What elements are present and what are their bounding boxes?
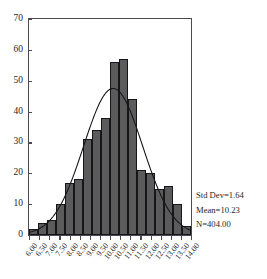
y-tick-mark: [28, 173, 32, 174]
y-tick-label: 60: [14, 45, 24, 55]
y-tick-label: 10: [14, 199, 24, 209]
histogram-bar: [47, 220, 56, 235]
histogram-chart: 010203040506070 6.006.507.007.508.008.50…: [0, 0, 267, 279]
histogram-bar: [128, 99, 137, 235]
stat-mean: Mean=10.23: [196, 203, 266, 218]
y-tick-label: 40: [14, 107, 24, 117]
histogram-bar: [173, 204, 182, 235]
y-tick-mark: [28, 235, 32, 236]
histogram-bar: [146, 173, 155, 235]
histogram-bar: [74, 179, 83, 235]
y-tick-label: 20: [14, 168, 24, 178]
histogram-bar: [92, 130, 101, 235]
histogram-bar: [110, 62, 119, 235]
histogram-bar: [164, 186, 173, 235]
histogram-bar: [119, 59, 128, 235]
y-tick-label: 70: [14, 14, 24, 24]
histogram-bar: [182, 226, 191, 235]
x-axis-labels: 6.006.507.007.508.008.509.009.5010.0010.…: [0, 236, 267, 279]
stat-std-dev: Std Dev=1.64: [196, 188, 266, 203]
bars-layer: [29, 19, 191, 235]
y-tick-mark: [28, 50, 32, 51]
y-tick-mark: [28, 142, 32, 143]
statistics-annotation: Std Dev=1.64 Mean=10.23 N=404.00: [196, 188, 266, 232]
histogram-bar: [101, 118, 110, 235]
y-tick-mark: [28, 81, 32, 82]
y-tick-label: 30: [14, 137, 24, 147]
y-tick-mark: [28, 112, 32, 113]
y-tick-mark: [28, 204, 32, 205]
y-tick-mark: [28, 19, 32, 20]
histogram-bar: [65, 183, 74, 235]
histogram-bar: [38, 223, 47, 235]
histogram-bar: [137, 170, 146, 235]
y-tick-label: 50: [14, 76, 24, 86]
histogram-bar: [56, 204, 65, 235]
histogram-bar: [155, 189, 164, 235]
histogram-bar: [83, 139, 92, 235]
stat-n: N=404.00: [196, 217, 266, 232]
